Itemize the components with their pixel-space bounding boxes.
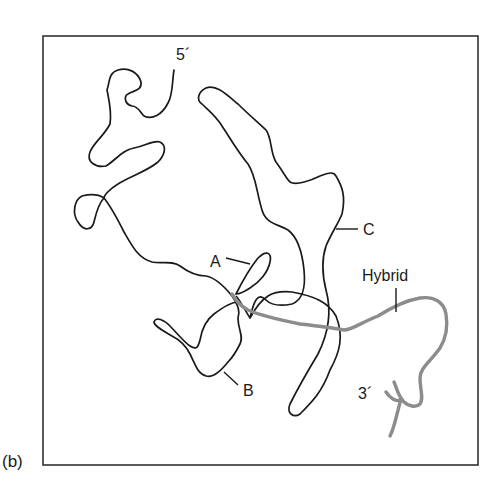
leader-b — [224, 372, 238, 385]
single-strand-rna — [75, 69, 242, 376]
hybridization-diagram: 5´ A B C Hybrid 3´ (b) — [0, 0, 501, 498]
three-prime-label: 3´ — [358, 386, 372, 402]
panel-label: (b) — [2, 452, 23, 472]
label-hybrid: Hybrid — [362, 268, 408, 284]
five-prime-label: 5´ — [176, 47, 190, 63]
label-a: A — [210, 254, 221, 270]
leader-a — [226, 258, 250, 264]
label-b: B — [243, 383, 254, 399]
diagram-canvas — [0, 0, 501, 498]
hybrid-strand — [232, 294, 447, 436]
loop-a — [236, 253, 270, 294]
label-c: C — [363, 222, 375, 238]
loop-c — [199, 87, 344, 415]
